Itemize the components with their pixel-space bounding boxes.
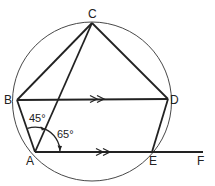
angle-label-45: 45° bbox=[29, 112, 46, 124]
point-label-f: F bbox=[197, 154, 204, 168]
segment-ab bbox=[17, 100, 35, 152]
segment-de bbox=[152, 99, 168, 152]
point-label-d: D bbox=[170, 93, 179, 107]
point-label-b: B bbox=[4, 93, 12, 107]
point-label-a: A bbox=[26, 154, 34, 168]
angle-label-65: 65° bbox=[57, 128, 74, 140]
segment-bc bbox=[17, 23, 92, 100]
point-label-e: E bbox=[149, 154, 157, 168]
segment-cd bbox=[92, 23, 168, 99]
segment-bd bbox=[17, 99, 168, 100]
arrowhead-icon bbox=[58, 146, 63, 152]
geometry-diagram: C B D A E F 45° 65° bbox=[0, 0, 215, 186]
point-label-c: C bbox=[88, 7, 97, 21]
